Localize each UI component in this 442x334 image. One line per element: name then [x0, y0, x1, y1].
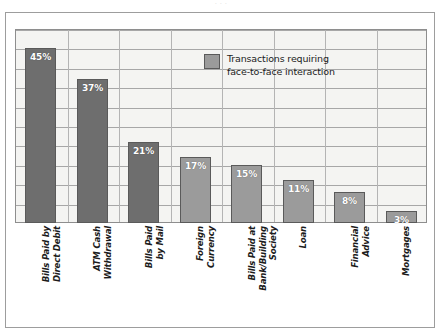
- bar-3: 21%: [128, 142, 159, 223]
- bar-value-label: 17%: [181, 161, 210, 171]
- bar-value-label: 37%: [78, 83, 107, 93]
- x-axis-label-6: Loan: [298, 226, 312, 322]
- x-axis-label-8: Mortgages: [401, 226, 415, 322]
- bar-5: 15%: [231, 165, 262, 223]
- x-axis-label-4: Foreign Currency: [195, 226, 209, 322]
- bar-4: 17%: [180, 157, 211, 223]
- x-axis-label-2: ATM Cash Withdrawal: [92, 226, 106, 322]
- bar-1: 45%: [25, 48, 56, 223]
- bar-value-label: 3%: [387, 215, 416, 225]
- bar-2: 37%: [77, 79, 108, 223]
- x-axis-label-3: Bills Paid by Mail: [144, 226, 158, 322]
- legend-label: Transactions requiring face-to-face inte…: [227, 52, 335, 78]
- cropped-header-text: · · ·: [0, 0, 442, 9]
- bar-value-label: 15%: [232, 169, 261, 179]
- figure-bar-chart: · · · 45%37%21%17%15%11%8%3% Transaction…: [0, 0, 442, 334]
- x-axis-label-5: Bills Paid at Bank/Building Society: [247, 226, 261, 322]
- bar-7: 8%: [334, 192, 365, 223]
- x-axis-labels: Bills Paid by Direct DebitATM Cash Withd…: [15, 226, 427, 324]
- x-axis-label-1: Bills Paid by Direct Debit: [41, 226, 55, 322]
- bar-value-label: 21%: [129, 146, 158, 156]
- legend: Transactions requiring face-to-face inte…: [204, 52, 335, 78]
- legend-swatch-icon: [204, 54, 220, 69]
- x-axis-label-7: Financial Advice: [350, 226, 364, 322]
- bar-value-label: 11%: [284, 184, 313, 194]
- bar-8: 3%: [386, 211, 417, 223]
- bar-value-label: 45%: [26, 52, 55, 62]
- bar-value-label: 8%: [335, 196, 364, 206]
- bar-6: 11%: [283, 180, 314, 223]
